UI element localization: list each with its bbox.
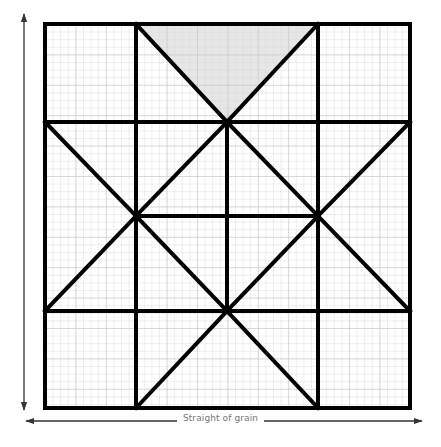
quilt-diagram: [0, 0, 441, 447]
straight-of-grain-label: Straight of grain: [177, 413, 264, 423]
grain-label-container: Straight of grain: [0, 413, 441, 423]
